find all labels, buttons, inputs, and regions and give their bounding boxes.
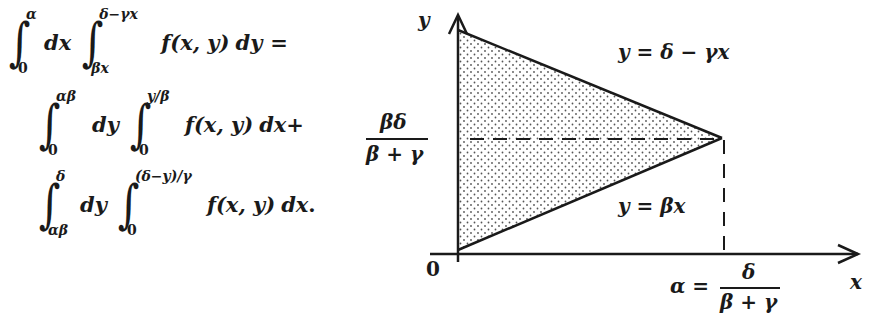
y-mark-denominator: β + γ <box>366 142 423 166</box>
x-mark-denominator: β + γ <box>720 290 777 314</box>
upper-line-label: y = δ − γx <box>618 40 729 64</box>
origin-label: 0 <box>426 257 440 281</box>
y-mark-numerator: βδ <box>380 110 407 134</box>
y-axis-label: y <box>418 8 430 32</box>
lower-line-label: y = βx <box>618 194 686 218</box>
x-mark-prefix: α = <box>670 274 709 298</box>
x-mark-numerator: δ <box>742 260 755 284</box>
x-axis-label: x <box>850 270 862 294</box>
